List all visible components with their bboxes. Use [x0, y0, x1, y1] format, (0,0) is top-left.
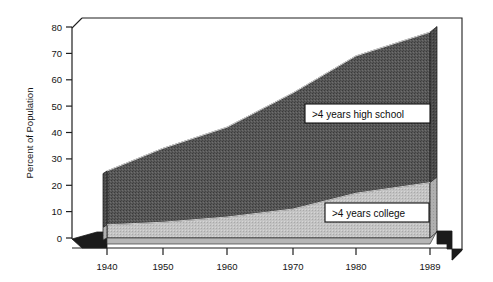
y-tick-label-60: 60 [51, 74, 62, 85]
educational-attainment-area-chart: 80 70 60 50 40 30 20 10 0 Percent of Pop… [0, 0, 493, 282]
y-tick-label-70: 70 [51, 48, 62, 59]
x-tick-label-1970: 1970 [282, 261, 303, 272]
x-tick-label-1960: 1960 [216, 261, 237, 272]
x-tick-label-1980: 1980 [345, 261, 366, 272]
y-axis-title: Percent of Population [24, 88, 35, 179]
chart-floor-left-wedge [72, 232, 107, 248]
y-tick-label-80: 80 [51, 22, 62, 33]
x-tick-label-1940: 1940 [96, 261, 117, 272]
x-tick-label-1989: 1989 [419, 261, 440, 272]
y-tick-label-50: 50 [51, 101, 62, 112]
y-tick-label-0: 0 [57, 233, 62, 244]
y-tick-label-10: 10 [51, 206, 62, 217]
x-tick-label-1950: 1950 [152, 261, 173, 272]
y-tick-label-20: 20 [51, 180, 62, 191]
chart-floor-right-wedge [437, 231, 462, 260]
y-axis: 80 70 60 50 40 30 20 10 0 Percent of Pop… [24, 22, 72, 244]
series-label-high-school: >4 years high school [305, 104, 430, 123]
chart-screenshot: 80 70 60 50 40 30 20 10 0 Percent of Pop… [0, 0, 493, 282]
series-label-high-school-text: >4 years high school [312, 109, 404, 120]
x-axis: 1940 1950 1960 1970 1980 1989 [72, 248, 452, 272]
series-label-college-text: >4 years college [332, 208, 406, 219]
y-tick-label-30: 30 [51, 153, 62, 164]
series-label-college: >4 years college [325, 203, 429, 222]
y-tick-label-40: 40 [51, 127, 62, 138]
